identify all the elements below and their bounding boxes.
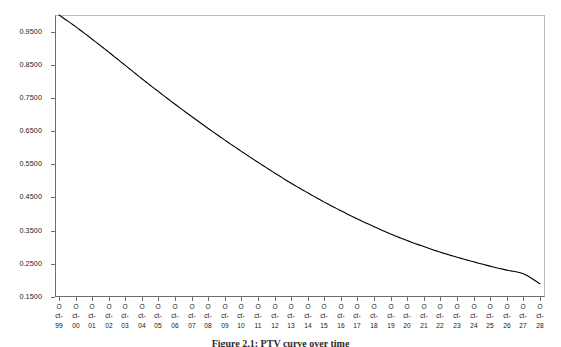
x-axis-tick-label-line: O: [529, 302, 551, 311]
x-axis-tick-mark: [540, 297, 541, 301]
x-axis-tick-mark: [341, 297, 342, 301]
x-axis-tick-mark: [225, 297, 226, 301]
x-axis-tick-mark: [76, 297, 77, 301]
x-axis-labels: Oct-99Oct-00Oct-01Oct-02Oct-03Oct-04Oct-…: [0, 302, 561, 334]
y-axis-tick-label: 0.3500: [0, 227, 42, 235]
x-axis-tick-mark: [324, 297, 325, 301]
x-axis-tick-mark: [59, 297, 60, 301]
x-axis-tick-mark: [507, 297, 508, 301]
y-axis-tick-label: 0.6500: [0, 127, 42, 135]
x-axis-tick-mark: [457, 297, 458, 301]
figure-caption: Figure 2.1: PTV curve over time: [0, 338, 561, 347]
x-axis-tick-mark: [291, 297, 292, 301]
figure-container: 0.95000.85000.75000.65000.55000.45000.35…: [0, 0, 561, 347]
x-axis-tick-label-line: ct-: [529, 311, 551, 320]
x-axis-tick-mark: [440, 297, 441, 301]
x-axis-tick-label-line: 28: [529, 321, 551, 330]
y-axis: 0.95000.85000.75000.65000.55000.45000.35…: [0, 0, 50, 347]
x-axis-tick-mark: [424, 297, 425, 301]
x-axis-tick-mark: [158, 297, 159, 301]
x-axis-tick-mark: [391, 297, 392, 301]
y-axis-tick-label: 0.4500: [0, 193, 42, 201]
y-axis-tick-label: 0.7500: [0, 94, 42, 102]
y-axis-tick-label: 0.9500: [0, 28, 42, 36]
x-axis-tick-mark: [208, 297, 209, 301]
x-axis-tick-mark: [258, 297, 259, 301]
x-axis-tick-mark: [374, 297, 375, 301]
x-axis-tick-mark: [523, 297, 524, 301]
series-line-value: [59, 15, 540, 284]
x-axis-tick-mark: [192, 297, 193, 301]
x-axis-tick-mark: [474, 297, 475, 301]
x-axis-tick-mark: [407, 297, 408, 301]
x-axis-tick-mark: [275, 297, 276, 301]
x-axis-tick-mark: [109, 297, 110, 301]
line-chart-svg: [55, 15, 545, 297]
x-axis-tick-mark: [241, 297, 242, 301]
x-axis-tick-mark: [125, 297, 126, 301]
y-axis-tick-label: 0.5500: [0, 160, 42, 168]
x-axis-tick-mark: [357, 297, 358, 301]
x-axis-tick-mark: [308, 297, 309, 301]
x-axis-tick-mark: [175, 297, 176, 301]
x-axis-tick-mark: [142, 297, 143, 301]
x-axis-tick-label: Oct-28: [529, 302, 551, 330]
y-axis-tick-label: 0.2500: [0, 260, 42, 268]
x-axis-tick-mark: [92, 297, 93, 301]
x-axis-tick-mark: [490, 297, 491, 301]
y-axis-tick-label: 0.8500: [0, 61, 42, 69]
